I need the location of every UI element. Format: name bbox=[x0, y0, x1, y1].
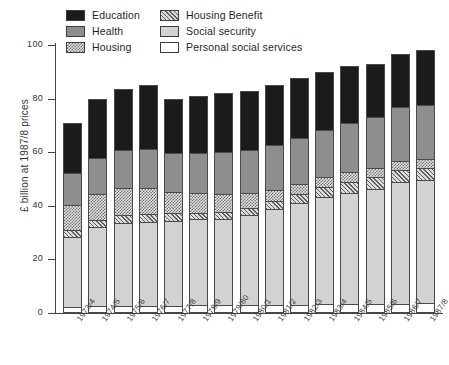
bar-segment-housing-benefit bbox=[366, 177, 385, 189]
legend-label-health: Health bbox=[92, 25, 123, 37]
bar-segment-housing bbox=[265, 190, 284, 201]
y-tick-label: 60 bbox=[32, 147, 43, 156]
bar-1977-8[interactable] bbox=[164, 99, 183, 313]
bar-segment-health bbox=[340, 123, 359, 172]
y-tick-label: 100 bbox=[27, 40, 43, 49]
bar-segment-housing bbox=[88, 194, 107, 219]
y-axis-title: £ billion at 1987/8 prices bbox=[19, 76, 30, 236]
bar-segment-social-security bbox=[391, 182, 410, 304]
bar-segment-social-security bbox=[265, 209, 284, 305]
bar-1982-3[interactable] bbox=[290, 78, 309, 313]
legend-swatch-education bbox=[66, 10, 85, 21]
stacked-bar-chart: £ billion at 1987/8 prices 020406080100 … bbox=[0, 0, 449, 365]
bar-segment-housing bbox=[240, 193, 259, 208]
bar-segment-housing bbox=[189, 193, 208, 213]
y-tick-mark bbox=[48, 99, 55, 100]
y-tick-mark bbox=[48, 259, 55, 260]
legend-item-health[interactable]: Health bbox=[66, 25, 140, 37]
bar-1975-6[interactable] bbox=[114, 89, 133, 313]
bar-1979-80[interactable] bbox=[214, 93, 233, 313]
bar-segment-housing-benefit bbox=[164, 213, 183, 220]
bar-segment-health bbox=[88, 158, 107, 194]
legend-item-personal-social[interactable]: Personal social services bbox=[160, 41, 302, 53]
bar-segment-housing bbox=[416, 159, 435, 168]
bar-segment-education bbox=[240, 91, 259, 150]
bar-segment-health bbox=[164, 153, 183, 192]
bar-1986-7[interactable] bbox=[391, 54, 410, 313]
bar-segment-housing-benefit bbox=[340, 182, 359, 193]
bar-segment-housing bbox=[391, 161, 410, 170]
bar-segment-housing-benefit bbox=[315, 187, 334, 197]
bar-1978-9[interactable] bbox=[189, 96, 208, 313]
bar-segment-education bbox=[265, 85, 284, 144]
bar-segment-health bbox=[265, 145, 284, 190]
y-tick-label: 40 bbox=[32, 201, 43, 210]
bars-layer bbox=[56, 45, 442, 313]
legend-item-housing[interactable]: Housing bbox=[66, 41, 140, 53]
bar-segment-health bbox=[315, 130, 334, 178]
bar-segment-housing-benefit bbox=[290, 194, 309, 203]
bar-segment-social-security bbox=[340, 193, 359, 304]
legend-swatch-housing bbox=[66, 42, 85, 53]
y-tick-label: 20 bbox=[32, 254, 43, 263]
bar-segment-social-security bbox=[189, 219, 208, 305]
legend-item-housing-benefit[interactable]: Housing Benefit bbox=[160, 9, 302, 21]
legend-label-housing: Housing bbox=[92, 41, 132, 53]
bar-segment-education bbox=[290, 78, 309, 138]
bar-segment-housing bbox=[214, 194, 233, 212]
bar-segment-housing-benefit bbox=[240, 208, 259, 215]
y-tick-mark bbox=[48, 313, 55, 314]
bar-segment-housing-benefit bbox=[114, 215, 133, 223]
bar-segment-social-security bbox=[214, 219, 233, 306]
bar-segment-social-security bbox=[164, 221, 183, 306]
bar-segment-housing bbox=[63, 205, 82, 230]
bar-1976-7[interactable] bbox=[139, 85, 158, 313]
bar-segment-education bbox=[63, 123, 82, 173]
bar-segment-social-security bbox=[366, 189, 385, 304]
bar-segment-housing-benefit bbox=[214, 212, 233, 219]
bar-segment-housing-benefit bbox=[416, 168, 435, 180]
bar-1974-5[interactable] bbox=[88, 99, 107, 313]
bar-segment-housing bbox=[290, 184, 309, 194]
bar-segment-education bbox=[416, 50, 435, 104]
bar-segment-housing-benefit bbox=[265, 201, 284, 209]
bar-segment-education bbox=[189, 96, 208, 153]
bar-segment-housing bbox=[366, 168, 385, 177]
bar-segment-housing bbox=[139, 188, 158, 213]
bar-segment-housing-benefit bbox=[88, 220, 107, 228]
y-tick-label: 80 bbox=[32, 94, 43, 103]
bar-segment-education bbox=[366, 64, 385, 118]
y-tick-mark bbox=[48, 152, 55, 153]
legend-item-education[interactable]: Education bbox=[66, 9, 140, 21]
bar-segment-housing bbox=[315, 177, 334, 187]
bar-segment-education bbox=[114, 89, 133, 150]
legend-item-social-security[interactable]: Social security bbox=[160, 25, 302, 37]
bar-1983-4[interactable] bbox=[315, 72, 334, 313]
bar-segment-education bbox=[315, 72, 334, 130]
bar-1987-8[interactable] bbox=[416, 50, 435, 313]
bar-segment-health bbox=[189, 153, 208, 193]
bar-segment-health bbox=[366, 117, 385, 167]
bar-1984-5[interactable] bbox=[340, 66, 359, 313]
bar-segment-social-security bbox=[290, 203, 309, 305]
bar-segment-education bbox=[139, 85, 158, 149]
bar-segment-health bbox=[290, 138, 309, 184]
bar-segment-housing-benefit bbox=[189, 213, 208, 220]
bar-1980-1[interactable] bbox=[240, 91, 259, 313]
bar-1973-4[interactable] bbox=[63, 123, 82, 313]
bar-segment-social-security bbox=[63, 237, 82, 307]
bar-segment-social-security bbox=[139, 222, 158, 306]
bar-segment-housing bbox=[164, 192, 183, 213]
bar-1985-6[interactable] bbox=[366, 64, 385, 313]
bar-segment-health bbox=[139, 149, 158, 188]
bar-segment-health bbox=[240, 150, 259, 193]
y-tick-label: 0 bbox=[38, 308, 43, 317]
bar-1981-2[interactable] bbox=[265, 85, 284, 313]
legend-label-social-security: Social security bbox=[186, 25, 256, 37]
bar-segment-social-security bbox=[240, 215, 259, 305]
bar-segment-health bbox=[391, 107, 410, 160]
bar-segment-housing bbox=[114, 188, 133, 214]
bar-segment-education bbox=[340, 66, 359, 123]
bar-segment-social-security bbox=[114, 223, 133, 306]
legend-swatch-social-security bbox=[160, 26, 179, 37]
